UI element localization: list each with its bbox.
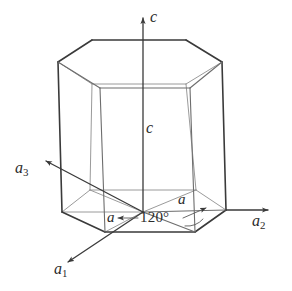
bottom-face-back-edge-left — [62, 190, 90, 212]
edge-length-label-left: a — [107, 210, 115, 225]
c-height-label: c — [146, 120, 153, 136]
vertical-edge-far-right — [222, 62, 226, 210]
axes-group — [46, 18, 268, 262]
top-face-front-edge-left — [58, 62, 100, 88]
a2-axis-label: a2 — [252, 213, 265, 231]
front-inner-edges-group — [58, 62, 226, 232]
hexagonal-unit-cell-figure: c a2 a1 a3 c a a 120° — [0, 0, 292, 291]
back-vertical-edge-left — [90, 84, 92, 190]
vertical-edge-far-left — [58, 62, 62, 212]
angle-arc — [185, 219, 203, 226]
a3-axis-label: a3 — [15, 160, 28, 178]
c-axis-label: c — [150, 9, 157, 25]
unit-cell-drawing — [0, 0, 292, 291]
edge-length-label-right: a — [178, 192, 186, 207]
bottom-face-edge-lower-right — [195, 210, 226, 232]
back-vertical-edge-right — [186, 84, 196, 190]
front-edges-group — [58, 40, 226, 232]
top-face-edge-upper-left — [58, 40, 92, 62]
bottom-face-edge-lower-left — [62, 212, 105, 232]
top-face-back-edge-right — [186, 62, 222, 84]
a1-axis-label: a1 — [54, 261, 67, 279]
bottom-radius-to-back-left-vertex — [90, 190, 143, 212]
bottom-face-back-edge-right — [196, 190, 226, 210]
front-vertical-edge-left — [100, 88, 105, 232]
top-face-edge-upper-right — [186, 40, 222, 62]
top-face-front-edge-right — [190, 62, 222, 88]
angle-label: 120° — [140, 210, 169, 225]
